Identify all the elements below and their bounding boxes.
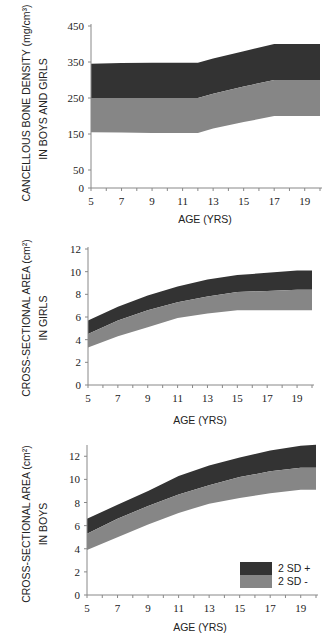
y-tick-label: 6 xyxy=(76,311,82,323)
x-tick-label: 17 xyxy=(269,195,281,207)
legend-label-lower: 2 SD - xyxy=(278,575,308,588)
x-tick-label: 5 xyxy=(88,195,94,207)
x-axis-label: AGE (YRS) xyxy=(173,621,227,633)
y-tick-label: 0 xyxy=(79,182,85,194)
y-tick-label: 12 xyxy=(69,450,80,462)
y-axis-label-line1: CROSS-SECTIONAL AREA (cm²) xyxy=(20,432,32,617)
y-tick-label: 4 xyxy=(76,334,82,346)
x-tick-label: 15 xyxy=(238,195,250,207)
x-tick-label: 17 xyxy=(262,392,274,404)
x-tick-label: 11 xyxy=(172,392,183,404)
legend-swatch-lower xyxy=(240,575,272,588)
chart-boys-area-plot: 0246810125791113151719 xyxy=(0,430,336,641)
chart-boys-area: 0246810125791113151719 CROSS-SECTIONAL A… xyxy=(0,430,336,641)
y-tick-label: 350 xyxy=(68,56,85,68)
x-tick-label: 7 xyxy=(115,602,121,614)
y-tick-label: 8 xyxy=(75,497,81,509)
x-tick-label: 11 xyxy=(173,602,184,614)
x-tick-label: 17 xyxy=(265,602,277,614)
x-tick-label: 19 xyxy=(295,602,307,614)
x-axis-label: AGE (YRS) xyxy=(173,414,227,426)
y-tick-label: 50 xyxy=(73,164,85,176)
chart-bone-density-plot: 0501502503504505791113151719 xyxy=(0,0,336,230)
y-tick-label: 150 xyxy=(68,128,85,140)
x-tick-label: 19 xyxy=(299,195,311,207)
y-tick-label: 2 xyxy=(76,356,82,368)
chart-bone-density: 0501502503504505791113151719 CANCELLOUS … xyxy=(0,0,336,230)
x-tick-label: 9 xyxy=(145,602,151,614)
y-axis-label-line2: IN BOYS xyxy=(37,432,49,617)
x-tick-label: 11 xyxy=(177,195,188,207)
x-tick-label: 15 xyxy=(232,392,244,404)
x-tick-label: 13 xyxy=(208,195,220,207)
x-tick-label: 13 xyxy=(204,602,216,614)
y-tick-label: 4 xyxy=(75,543,81,555)
y-tick-label: 0 xyxy=(76,379,82,391)
y-axis-label-line1: CROSS-SECTIONAL AREA (cm²) xyxy=(20,226,32,411)
y-axis-label-line2: IN BOYS AND GIRLS xyxy=(37,17,49,202)
y-tick-label: 450 xyxy=(68,20,85,32)
y-tick-label: 0 xyxy=(75,589,81,601)
y-tick-label: 250 xyxy=(68,92,85,104)
x-tick-label: 5 xyxy=(85,392,91,404)
y-tick-label: 12 xyxy=(70,243,81,255)
x-axis-label: AGE (YRS) xyxy=(178,213,232,225)
y-axis-label-line2: IN GIRLS xyxy=(37,226,49,411)
legend-swatch-upper xyxy=(240,562,272,575)
x-tick-label: 9 xyxy=(149,195,155,207)
y-tick-label: 8 xyxy=(76,288,82,300)
x-tick-label: 5 xyxy=(84,602,90,614)
x-tick-label: 9 xyxy=(145,392,151,404)
legend-label-upper: 2 SD + xyxy=(278,562,310,575)
chart-girls-area: 0246810125791113151719 CROSS-SECTIONAL A… xyxy=(0,230,336,430)
x-tick-label: 7 xyxy=(119,195,125,207)
x-tick-label: 13 xyxy=(202,392,214,404)
y-tick-label: 10 xyxy=(70,266,82,278)
x-tick-label: 15 xyxy=(234,602,246,614)
y-tick-label: 2 xyxy=(75,566,81,578)
chart-girls-area-plot: 0246810125791113151719 xyxy=(0,230,336,430)
y-axis-label-line1: CANCELLOUS BONE DENSITY (mg/cm³) xyxy=(20,17,32,202)
y-tick-label: 6 xyxy=(75,520,81,532)
y-tick-label: 10 xyxy=(69,473,81,485)
x-tick-label: 19 xyxy=(292,392,304,404)
x-tick-label: 7 xyxy=(115,392,121,404)
